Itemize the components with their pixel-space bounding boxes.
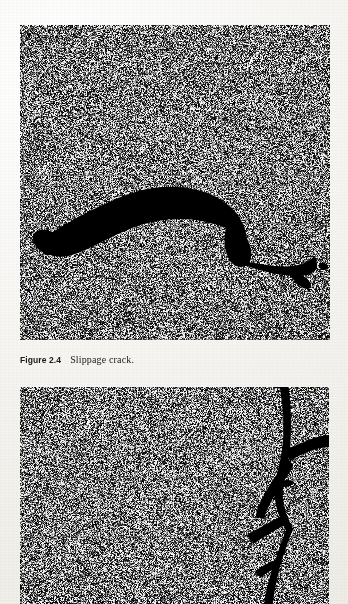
asphalt-texture-bottom-overlay [20, 387, 329, 604]
figure-2-5-photo [20, 387, 329, 604]
figure-caption-text: Slippage crack. [70, 354, 134, 365]
figure-caption: Figure 2.4Slippage crack. [20, 350, 134, 366]
figure-caption-label: Figure 2.4 [20, 355, 61, 365]
asphalt-texture-top-overlay [20, 25, 330, 340]
photo-frame-top [20, 25, 330, 340]
figure-2-4-photo [20, 25, 330, 340]
photo-frame-bottom [20, 387, 329, 604]
scanned-page: Figure 2.4Slippage crack. [0, 0, 348, 604]
